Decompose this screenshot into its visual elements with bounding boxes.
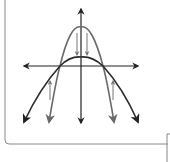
frame-border bbox=[5, 0, 168, 144]
parabola-diagram bbox=[0, 0, 170, 162]
frame-bracket bbox=[167, 134, 170, 162]
